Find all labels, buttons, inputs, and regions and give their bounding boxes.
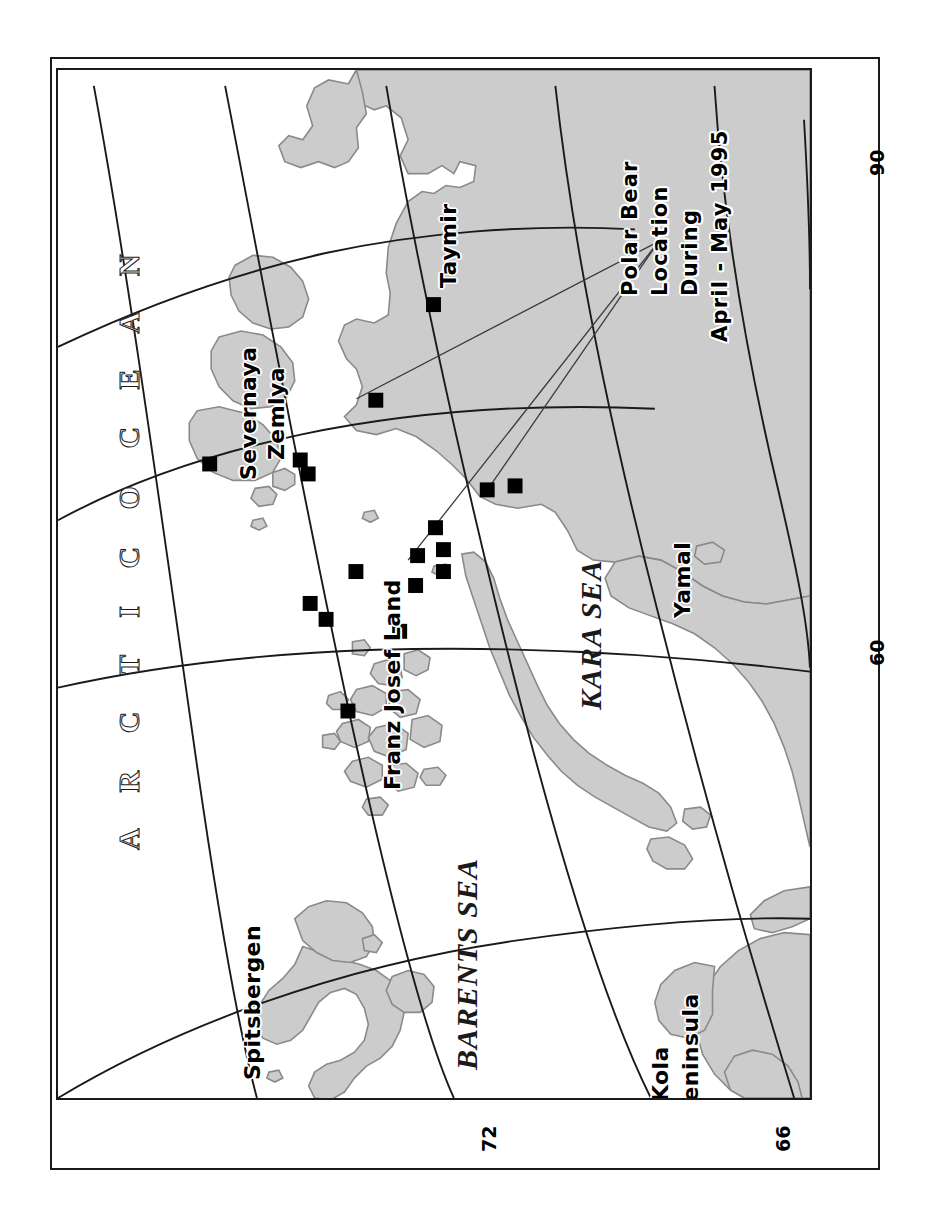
figure-root: A R C T I C O C E A N KARA SEA BARENTS S… xyxy=(0,0,932,1221)
land-bear-island xyxy=(267,1070,283,1082)
land-kara-islet-a xyxy=(251,518,267,530)
land-fjl-g xyxy=(410,715,442,747)
polar-bear-marker xyxy=(202,456,217,471)
polar-bear-marker xyxy=(340,704,355,719)
land-edgeoya xyxy=(386,970,434,1012)
land-kara-islet-b xyxy=(362,510,378,522)
polar-bear-marker xyxy=(348,564,363,579)
polar-bear-marker xyxy=(426,297,441,312)
land-vaygach xyxy=(683,807,711,829)
polar-bear-marker xyxy=(410,548,425,563)
polar-bear-marker xyxy=(436,564,451,579)
polar-bear-marker xyxy=(408,578,423,593)
land-fjl-f xyxy=(368,723,408,757)
polar-bear-marker xyxy=(301,466,316,481)
land-severnaya-zemlya-islet-a xyxy=(273,468,295,490)
graticule-lon-30 xyxy=(94,86,257,1098)
land-severnaya-zemlya-islet-b xyxy=(251,486,277,506)
land-fjl-i xyxy=(386,763,418,791)
land-novaya-zemlya-south-islet xyxy=(647,837,693,869)
polar-bear-marker xyxy=(303,596,318,611)
land-fjl-m xyxy=(420,767,446,785)
polar-bear-marker xyxy=(368,393,383,408)
polar-bear-marker xyxy=(428,520,443,535)
polar-bear-marker xyxy=(508,478,523,493)
polar-bear-marker xyxy=(319,612,334,627)
land-north-coast-strip xyxy=(750,887,810,933)
land-fjl-n xyxy=(362,797,388,815)
land-fjl-a xyxy=(370,660,402,686)
land-kola-northwest xyxy=(655,963,715,1039)
land-severnaya-zemlya-middle xyxy=(211,331,295,409)
land-fjl-c xyxy=(350,686,386,716)
polar-bear-marker xyxy=(436,542,451,557)
polar-bear-marker xyxy=(392,624,407,639)
graticule-lat-72 xyxy=(58,649,810,688)
map-plot-area: A R C T I C O C E A N KARA SEA BARENTS S… xyxy=(56,68,812,1100)
map-canvas xyxy=(58,70,810,1098)
land-fjl-d xyxy=(388,690,420,718)
land-taymir-north-cape xyxy=(279,70,367,168)
land-spitsbergen-islet-a xyxy=(362,935,382,953)
polar-bear-marker xyxy=(480,482,495,497)
land-fjl-k xyxy=(352,640,370,656)
land-siberia-taymir xyxy=(339,70,810,604)
polar-bear-marker xyxy=(293,453,308,468)
land-fjl-b xyxy=(404,650,430,676)
